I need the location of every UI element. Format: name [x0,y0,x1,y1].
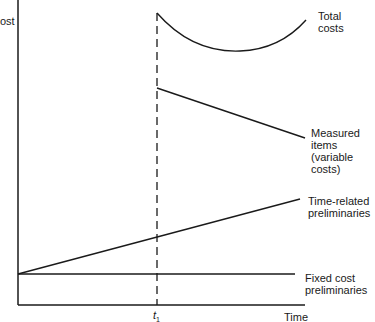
time-related-line-2: preliminaries [308,207,370,219]
measured-line-3: (variable [311,151,360,163]
total-costs-line-2: costs [318,22,344,34]
time-related-line-1: Time-related [308,195,370,207]
t1-subscript: 1 [156,316,160,322]
time-related-line [18,199,300,274]
t1-label: t1 [153,309,160,322]
measured-line-1: Measured [311,127,360,139]
total-costs-label: Total costs [318,10,344,34]
measured-line-4: costs) [311,163,360,175]
x-axis-label: Time [284,311,308,322]
fixed-cost-line-2: preliminaries [305,284,367,296]
time-related-label: Time-related preliminaries [308,195,370,219]
total-costs-line-1: Total [318,10,344,22]
measured-line-2: items [311,139,360,151]
total-costs-curve [157,13,306,51]
fixed-cost-label: Fixed cost preliminaries [305,272,367,296]
y-axis-label: ost [0,15,15,27]
measured-items-label: Measured items (variable costs) [311,127,360,175]
measured-items-line [157,88,305,138]
fixed-cost-line-1: Fixed cost [305,272,367,284]
